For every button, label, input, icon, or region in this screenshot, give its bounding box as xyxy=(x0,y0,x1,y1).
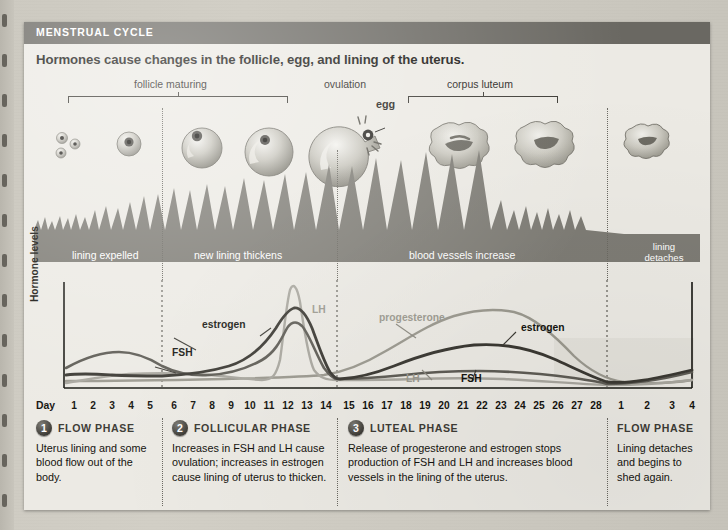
day-axis-word: Day xyxy=(36,400,55,411)
day-tick: 15 xyxy=(341,400,357,411)
primordial-follicles-icon xyxy=(56,133,80,159)
day-tick: 24 xyxy=(512,400,528,411)
hormone-levels-chart xyxy=(24,280,710,402)
corpus-albicans-icon xyxy=(624,124,669,159)
figure-title: MENSTRUAL CYCLE xyxy=(36,26,154,38)
day-tick: 18 xyxy=(398,400,414,411)
phase-title-2: FOLLICULAR PHASE xyxy=(194,422,311,434)
day-tick: 12 xyxy=(280,400,296,411)
lining-label-detaches-line2: detaches xyxy=(638,253,690,264)
day-tick: 3 xyxy=(104,400,120,411)
phase-title-4: FLOW PHASE xyxy=(617,422,694,434)
primary-follicle-icon xyxy=(117,132,141,156)
day-tick: 5 xyxy=(142,400,158,411)
binder-holes-strip xyxy=(0,0,14,530)
curve-label-progesterone: progesterone xyxy=(379,312,445,323)
curve-label-lh-luteal: LH xyxy=(406,373,420,384)
menstrual-cycle-figure: MENSTRUAL CYCLE Hormones cause changes i… xyxy=(24,22,710,510)
lining-label-expelled: lining expelled xyxy=(72,249,139,261)
figure-title-bar: MENSTRUAL CYCLE xyxy=(24,22,710,44)
phase-number-badge-1: 1 xyxy=(36,420,52,436)
day-tick: 2 xyxy=(85,400,101,411)
day-axis: Day 1 2 3 4 5 6 7 8 9 10 11 12 13 14 15 … xyxy=(24,394,710,416)
day-tick: 10 xyxy=(242,400,258,411)
phase-luteal: 3 LUTEAL PHASE Release of progesterone a… xyxy=(348,418,596,484)
day-tick: 14 xyxy=(318,400,334,411)
day-tick: 26 xyxy=(550,400,566,411)
day-tick: 16 xyxy=(360,400,376,411)
day-tick: 1 xyxy=(66,400,82,411)
day-tick: 11 xyxy=(261,400,277,411)
phase-body-2: Increases in FSH and LH cause ovulation;… xyxy=(172,441,330,484)
day-tick: 20 xyxy=(436,400,452,411)
day-tick: 4 xyxy=(123,400,139,411)
curve-label-fsh-luteal: FSH xyxy=(461,373,482,384)
phase-descriptions: 1 FLOW PHASE Uterus lining and some bloo… xyxy=(24,418,710,510)
day-tick: 13 xyxy=(299,400,315,411)
day-tick: 23 xyxy=(493,400,509,411)
day-tick: 25 xyxy=(531,400,547,411)
day-tick: 17 xyxy=(379,400,395,411)
phase-body-4: Lining detaches and begins to shed again… xyxy=(617,441,701,484)
phase-body-1: Uterus lining and some blood flow out of… xyxy=(36,441,154,484)
day-tick: 1 xyxy=(613,400,629,411)
corpus-luteum-icon-2 xyxy=(515,121,575,167)
day-tick: 4 xyxy=(684,400,700,411)
phase-number-badge-2: 2 xyxy=(172,420,188,436)
phase-body-3: Release of progesterone and estrogen sto… xyxy=(348,441,596,484)
curve-label-estrogen-follicular: estrogen xyxy=(202,319,246,330)
day-tick: 19 xyxy=(417,400,433,411)
phase-title-1: FLOW PHASE xyxy=(58,422,135,434)
secondary-follicle-icon xyxy=(182,128,222,168)
phase-follicular: 2 FOLLICULAR PHASE Increases in FSH and … xyxy=(172,418,330,484)
curve-label-lh-peak: LH xyxy=(312,304,326,315)
figure-subtitle: Hormones cause changes in the follicle, … xyxy=(36,52,464,67)
phase-divider-3-top xyxy=(607,108,608,280)
day-tick: 27 xyxy=(569,400,585,411)
phase-flow-next: FLOW PHASE Lining detaches and begins to… xyxy=(617,418,701,484)
lining-label-detaches-line1: lining xyxy=(638,242,690,253)
lining-label-blood-vessels: blood vessels increase xyxy=(409,249,515,261)
phase-number-badge-3: 3 xyxy=(348,420,364,436)
phase-flow: 1 FLOW PHASE Uterus lining and some bloo… xyxy=(36,418,154,484)
day-tick: 8 xyxy=(204,400,220,411)
phase-divider-1-top xyxy=(162,108,163,280)
curve-label-fsh-follicular: FSH xyxy=(172,347,193,358)
day-tick: 2 xyxy=(639,400,655,411)
day-tick: 21 xyxy=(455,400,471,411)
day-tick: 3 xyxy=(664,400,680,411)
day-tick: 7 xyxy=(185,400,201,411)
day-tick: 22 xyxy=(474,400,490,411)
lining-label-detaches: lining detaches xyxy=(638,242,690,263)
phase-title-3: LUTEAL PHASE xyxy=(370,422,458,434)
day-tick: 6 xyxy=(166,400,182,411)
day-tick: 28 xyxy=(588,400,604,411)
curve-label-estrogen-luteal: estrogen xyxy=(521,322,565,333)
day-tick: 9 xyxy=(223,400,239,411)
phase-divider-2-top xyxy=(337,150,338,280)
tertiary-follicle-icon xyxy=(245,128,293,176)
lining-label-new-thickens: new lining thickens xyxy=(194,249,282,261)
